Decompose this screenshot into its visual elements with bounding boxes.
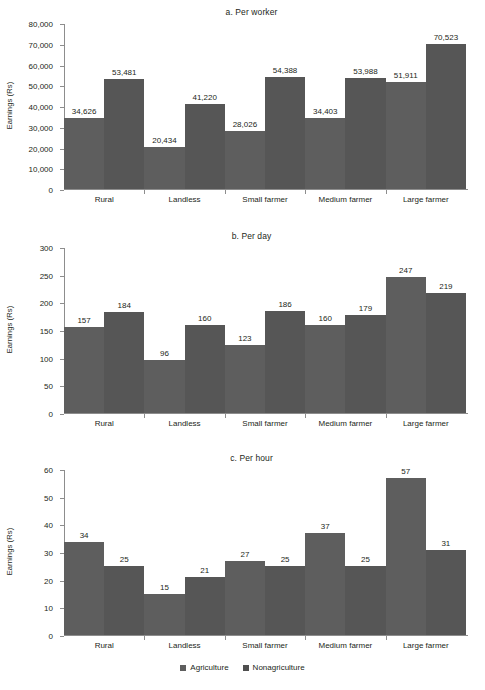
plot-area-per-day: 050100150200250300157184Rural96160Landle… [64,248,466,414]
x-axis-category-label: Large farmer [386,195,466,204]
y-axis-tick-label: 0 [49,410,53,419]
bar-value-label: 160 [198,314,211,323]
bar-nonagriculture[interactable]: 53,988 [345,78,385,189]
y-axis-tick-label: 10,000 [29,165,53,174]
bar-group: 5731Large farmer [386,470,466,635]
bar-value-label: 96 [160,349,169,358]
bar-agriculture[interactable]: 20,434 [144,147,184,189]
bar-agriculture[interactable]: 160 [305,325,345,413]
legend-label: Nonagriculture [253,663,305,672]
bar-group: 160179Medium farmer [305,248,385,413]
bar-value-label: 53,481 [112,68,136,77]
bar-nonagriculture[interactable]: 53,481 [104,79,144,189]
x-axis-tick [305,414,306,418]
y-axis-tick-label: 0 [49,632,53,641]
y-axis-tick-label: 10 [44,604,53,613]
bar-group: 247219Large farmer [386,248,466,413]
bar-value-label: 247 [399,266,412,275]
bar-agriculture[interactable]: 15 [144,594,184,635]
x-axis-category-label: Small farmer [225,195,305,204]
legend-item-agriculture[interactable]: Agriculture [180,663,228,672]
bar-agriculture[interactable]: 123 [225,345,265,413]
bar-nonagriculture[interactable]: 31 [426,550,466,635]
bar-nonagriculture[interactable]: 70,523 [426,44,466,189]
y-axis-tick-label: 70,000 [29,40,53,49]
x-axis-category-label: Rural [64,419,144,428]
y-axis-tick-label: 40,000 [29,103,53,112]
y-axis-tick-label: 20 [44,576,53,585]
x-axis-line [64,635,468,636]
bar-pair: 3425 [64,470,144,635]
bar-agriculture[interactable]: 34,403 [305,118,345,189]
bar-value-label: 34,626 [72,107,96,116]
bar-agriculture[interactable]: 247 [386,277,426,413]
bar-value-label: 160 [319,314,332,323]
bar-agriculture[interactable]: 96 [144,360,184,413]
bar-agriculture[interactable]: 34 [64,542,104,636]
bar-agriculture[interactable]: 57 [386,478,426,635]
x-axis-tick [225,636,226,640]
bar-nonagriculture[interactable]: 25 [265,566,305,635]
bar-value-label: 34,403 [313,107,337,116]
y-axis-tick-label: 50 [44,493,53,502]
bar-pair: 5731 [386,470,466,635]
x-axis-tick [386,636,387,640]
bar-agriculture[interactable]: 34,626 [64,118,104,189]
bar-nonagriculture[interactable]: 25 [104,566,144,635]
x-axis-tick [305,190,306,194]
x-axis-tick [225,414,226,418]
bar-nonagriculture[interactable]: 21 [185,577,225,635]
bar-nonagriculture[interactable]: 160 [185,325,225,413]
x-axis-category-label: Small farmer [225,641,305,650]
bar-agriculture[interactable]: 157 [64,327,104,413]
bar-pair: 1521 [144,470,224,635]
bar-group: 3725Medium farmer [305,470,385,635]
bar-value-label: 157 [77,316,90,325]
bar-group: 20,43441,220Landless [144,24,224,189]
bar-pair: 2725 [225,470,305,635]
bar-group: 157184Rural [64,248,144,413]
y-axis-tick-label: 50,000 [29,82,53,91]
x-axis-line [64,189,468,190]
bar-agriculture[interactable]: 28,026 [225,131,265,189]
bar-value-label: 37 [321,522,330,531]
bar-value-label: 31 [441,539,450,548]
chart-panel-per-worker: a. Per worker Earnings (Rs) 010,00020,00… [0,6,485,222]
y-axis-tick-label: 30,000 [29,123,53,132]
bar-group: 28,02654,388Small farmer [225,24,305,189]
bar-nonagriculture[interactable]: 186 [265,311,305,413]
bar-nonagriculture[interactable]: 179 [345,315,385,413]
y-axis-tick-label: 40 [44,521,53,530]
legend-item-nonagriculture[interactable]: Nonagriculture [243,663,305,672]
y-axis-title-per-day: Earnings (Rs) [4,244,16,414]
y-axis-tick: 0 [60,414,64,415]
bar-group: 2725Small farmer [225,470,305,635]
bar-pair: 247219 [386,248,466,413]
bar-agriculture[interactable]: 37 [305,533,345,635]
y-axis-title-per-worker: Earnings (Rs) [4,20,16,190]
y-axis-tick-label: 0 [49,186,53,195]
x-axis-tick [305,636,306,640]
bar-nonagriculture[interactable]: 41,220 [185,104,225,189]
bar-group: 51,91170,523Large farmer [386,24,466,189]
x-axis-category-label: Landless [144,419,224,428]
x-axis-tick [144,636,145,640]
bar-group: 3425Rural [64,470,144,635]
bar-nonagriculture[interactable]: 219 [426,293,466,413]
bar-nonagriculture[interactable]: 25 [345,566,385,635]
chart-panel-per-day: b. Per day Earnings (Rs) 050100150200250… [0,230,485,446]
bar-value-label: 20,434 [152,136,176,145]
plot-area-per-hour: 01020304050603425Rural1521Landless2725Sm… [64,470,466,636]
chart-title-per-hour: c. Per hour [0,452,485,464]
bar-agriculture[interactable]: 27 [225,561,265,635]
bar-group: 34,62653,481Rural [64,24,144,189]
bar-pair: 3725 [305,470,385,635]
y-axis-tick-label: 200 [40,299,53,308]
x-axis-category-label: Landless [144,195,224,204]
bar-pair: 96160 [144,248,224,413]
bar-nonagriculture[interactable]: 184 [104,312,144,413]
bar-pair: 160179 [305,248,385,413]
bar-agriculture[interactable]: 51,911 [386,82,426,189]
x-axis-tick [386,414,387,418]
bar-nonagriculture[interactable]: 54,388 [265,77,305,189]
